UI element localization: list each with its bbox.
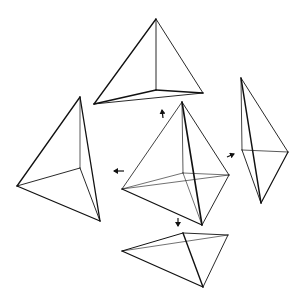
edge (156, 90, 203, 93)
edge (241, 78, 242, 150)
edge (242, 150, 288, 152)
edge (182, 102, 202, 225)
edge (156, 19, 203, 93)
edge (94, 19, 156, 104)
edge (183, 173, 229, 175)
tetrahedra-group (17, 19, 288, 287)
edge (122, 235, 228, 251)
edge (17, 186, 100, 221)
left-tetrahedron (17, 97, 100, 221)
edge (122, 102, 182, 189)
top-tetrahedron (94, 19, 203, 104)
edge (122, 175, 229, 189)
direction-arrows-group (114, 110, 234, 226)
edge (242, 150, 261, 203)
edge (241, 78, 288, 152)
edge (261, 152, 288, 203)
edge (241, 78, 261, 203)
edge (17, 97, 80, 186)
edge (122, 233, 183, 251)
edge (182, 102, 183, 173)
edge (183, 233, 228, 235)
edge (122, 189, 202, 225)
edge (182, 102, 229, 175)
bottom-tetrahedron (122, 233, 228, 287)
edge (122, 251, 203, 287)
edge (17, 168, 80, 186)
right-tetrahedron (241, 78, 288, 203)
center-tetrahedron (122, 102, 229, 225)
tetrahedra-diagram (0, 0, 304, 304)
edge (203, 235, 228, 287)
edge (94, 93, 203, 104)
arrow-up-right-icon (227, 154, 234, 157)
edge (80, 168, 100, 221)
edge (80, 97, 100, 221)
arrow-up-icon (162, 110, 163, 118)
edge (202, 175, 229, 225)
